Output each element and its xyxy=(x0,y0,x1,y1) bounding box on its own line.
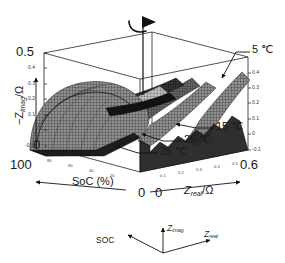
soc-tick-0: 80 xyxy=(47,159,52,163)
soc-start-label: 100 xyxy=(10,158,32,171)
soc-tick-2: 40 xyxy=(89,169,94,173)
temp-label-5c: 5 ℃ xyxy=(252,44,273,55)
z-tick-left-1: 0.3 xyxy=(28,81,35,86)
zreal-tick-3: 0.4 xyxy=(214,165,220,169)
temp-label-25c: 25 ℃ xyxy=(184,134,211,145)
soc-tick-3: 20 xyxy=(110,174,115,178)
temp-label-15c: 15 ℃ xyxy=(216,121,243,132)
z-axis-label: −Zimag/Ω xyxy=(14,86,26,125)
z-axis-zero-label: 0 xyxy=(33,138,40,151)
z-tick-right-4: 0 xyxy=(252,131,255,136)
zreal-start-label: 0 xyxy=(155,186,162,199)
legend-zreal-sub: real xyxy=(209,233,218,239)
soc-axis-label: SoC (%) xyxy=(72,176,114,187)
z-tick-left-2: 0.2 xyxy=(28,96,35,101)
soc-tick-1: 60 xyxy=(68,164,73,168)
legend-zimag-label: Zimag xyxy=(167,224,184,233)
soc-end-label: 0 xyxy=(138,186,145,199)
temp-label-35c: 35 ℃ xyxy=(160,146,187,157)
z-axis-ticks-right xyxy=(248,73,251,150)
zreal-tick-2: 0.3 xyxy=(196,168,202,172)
z-tick-right-5: -0.1 xyxy=(252,147,261,152)
zreal-axis-label-text: Z xyxy=(184,184,191,196)
z-tick-left-4: -0.1 xyxy=(25,143,34,148)
zreal-tick-0: 0.1 xyxy=(160,174,166,178)
legend-zreal-label: Zreal xyxy=(204,230,218,239)
zreal-axis-label-unit: /Ω xyxy=(202,184,213,196)
z-tick-right-2: 0.2 xyxy=(252,100,259,105)
zreal-axis-label: Zreal/Ω xyxy=(184,185,213,197)
z-axis-label-text: −Z xyxy=(13,112,25,125)
zreal-axis-label-sub: real xyxy=(191,190,202,197)
surface-dome-high-soc xyxy=(30,82,149,156)
z-axis-max-label: 0.5 xyxy=(16,45,34,58)
z-axis-label-sub: imag xyxy=(19,97,26,112)
z-tick-right-0: 0.4 xyxy=(252,70,259,75)
zreal-end-label: 0.6 xyxy=(240,158,258,171)
z-tick-left-0: 0.4 xyxy=(28,65,35,70)
figure-3d-impedance-plot: −Zimag/Ω 0.5 0 0.4 0.3 0.2 0.1 -0.1 0.4 … xyxy=(0,0,285,263)
legend-soc-label: SOC xyxy=(96,236,114,245)
z-tick-right-3: 0.1 xyxy=(252,116,259,121)
zreal-tick-4: 0.5 xyxy=(232,162,238,166)
z-tick-right-1: 0.3 xyxy=(252,85,259,90)
zreal-tick-1: 0.2 xyxy=(178,171,184,175)
z-axis-label-unit: /Ω xyxy=(13,86,25,97)
z-tick-left-3: 0.1 xyxy=(28,112,35,117)
legend-zimag-sub: imag xyxy=(172,227,183,233)
